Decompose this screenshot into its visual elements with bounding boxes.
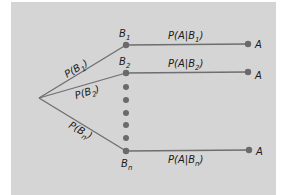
edge-b1-a [126,44,248,45]
node-label-b2: B2 [119,56,131,70]
cond-prob-label-2: P(A|B2) [168,58,203,72]
node-label-bn: Bn [121,158,132,172]
edge-bn-a [126,150,249,151]
node-b2 [123,70,129,76]
outcome-node-an [246,147,252,153]
node-bn [123,148,129,154]
cond-prob-label-n: P(A|Bn) [168,154,203,168]
branch-prob-label-1: P(B1) [62,57,91,82]
node-label-b1: B1 [119,28,130,42]
ellipsis-dots [123,84,129,141]
branch-prob-label-n: P(Bn) [66,119,95,144]
outcome-label-a1: A [254,39,262,50]
probability-tree-diagram: B1 B2 Bn A A A P(A|B1) P(A|B2) P(A|Bn) P… [0,0,296,195]
outcome-label-a2: A [254,70,262,81]
cond-prob-label-1: P(A|B1) [168,30,203,44]
branch-prob-label-2: P(B2) [73,83,101,104]
edge-b2-a [126,72,248,73]
outcome-label-an: A [255,146,263,157]
outcome-node-a1 [245,41,251,47]
node-b1 [123,42,129,48]
outcome-node-a2 [245,69,251,75]
